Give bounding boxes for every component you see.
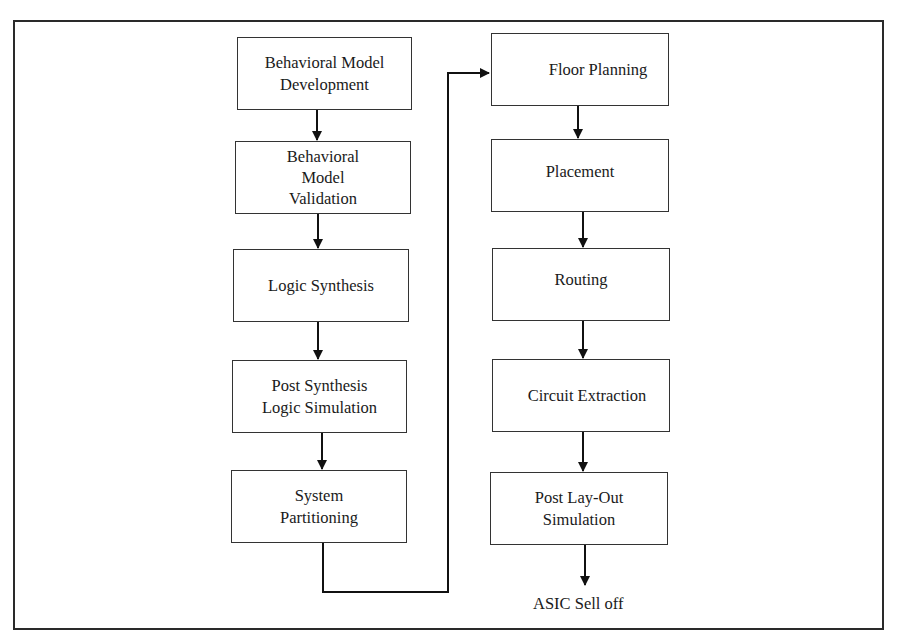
box-placement: Placement xyxy=(491,139,669,212)
box-logic-synthesis: Logic Synthesis xyxy=(233,249,409,322)
box-label: Simulation xyxy=(535,509,623,531)
box-circuit-extraction: Circuit Extraction xyxy=(492,359,670,432)
box-label: Partitioning xyxy=(280,507,358,529)
box-label: Development xyxy=(265,74,385,96)
box-label: System xyxy=(280,485,358,507)
box-label: Placement xyxy=(546,161,615,183)
box-label: Floor Planning xyxy=(549,59,648,81)
connector-arrows xyxy=(0,0,898,644)
box-behavioral-model-development: Behavioral ModelDevelopment xyxy=(237,37,412,110)
box-label: Circuit Extraction xyxy=(528,385,647,407)
box-label: Post Synthesis xyxy=(262,375,377,397)
box-routing: Routing xyxy=(492,248,670,321)
box-label: Post Lay-Out xyxy=(535,487,623,509)
box-label: Validation xyxy=(287,188,359,209)
box-post-synthesis-logic-simulation: Post SynthesisLogic Simulation xyxy=(232,360,407,433)
asic-sell-off-label: ASIC Sell off xyxy=(533,594,623,614)
box-label: Behavioral Model xyxy=(265,52,385,74)
box-label: Logic Synthesis xyxy=(268,275,374,297)
box-label: Logic Simulation xyxy=(262,397,377,419)
box-label: Behavioral xyxy=(287,146,359,167)
box-label: Routing xyxy=(554,269,607,291)
box-system-partitioning: SystemPartitioning xyxy=(231,470,407,543)
box-floor-planning: Floor Planning xyxy=(491,33,669,106)
box-post-layout-simulation: Post Lay-OutSimulation xyxy=(490,472,668,545)
box-behavioral-model-validation: BehavioralModelValidation xyxy=(235,141,411,214)
box-label: Model xyxy=(287,167,359,188)
